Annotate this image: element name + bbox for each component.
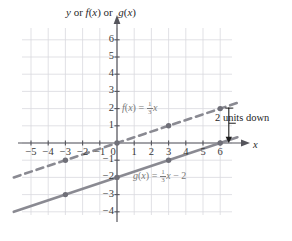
y-tick-neg3: −3 xyxy=(101,188,114,199)
x-tick-neg2: −2 xyxy=(77,146,89,157)
y-tick-3: 3 xyxy=(107,84,114,95)
y-tick-neg2: −2 xyxy=(101,170,114,181)
function-lines xyxy=(14,103,238,212)
y-tick-6: 6 xyxy=(107,33,114,44)
y-tick-neg1: −1 xyxy=(101,153,114,164)
x-tick-5: 5 xyxy=(200,146,206,157)
x-axis-label: x xyxy=(253,139,258,150)
x-tick-2: 2 xyxy=(148,146,154,157)
f-function-label: f(x) = 13x xyxy=(122,101,158,116)
chart-title: y or f(x) or g(x) xyxy=(66,6,136,18)
x-tick-6: 6 xyxy=(217,146,223,157)
title-y: y xyxy=(66,6,71,18)
title-g: g xyxy=(118,6,124,18)
y-tick-neg4: −4 xyxy=(101,205,114,216)
title-f: f xyxy=(86,6,89,18)
annotation-label: 2 units down xyxy=(215,112,269,123)
g-function-label: g(x) = 13x − 2 xyxy=(133,169,186,184)
x-tick-4: 4 xyxy=(183,146,189,157)
x-tick-1: 1 xyxy=(131,146,137,157)
x-tick-neg4: −4 xyxy=(42,146,54,157)
gridlines xyxy=(22,28,232,215)
y-tick-1: 1 xyxy=(107,119,114,130)
y-tick-4: 4 xyxy=(107,67,114,78)
graph-figure: y or f(x) or g(x) x −5−4−3−2−10123456 65… xyxy=(0,0,292,241)
x-tick-neg3: −3 xyxy=(59,146,71,157)
x-tick-3: 3 xyxy=(166,146,172,157)
y-tick-5: 5 xyxy=(107,50,114,61)
x-tick-neg5: −5 xyxy=(25,146,37,157)
y-tick-2: 2 xyxy=(107,102,114,113)
